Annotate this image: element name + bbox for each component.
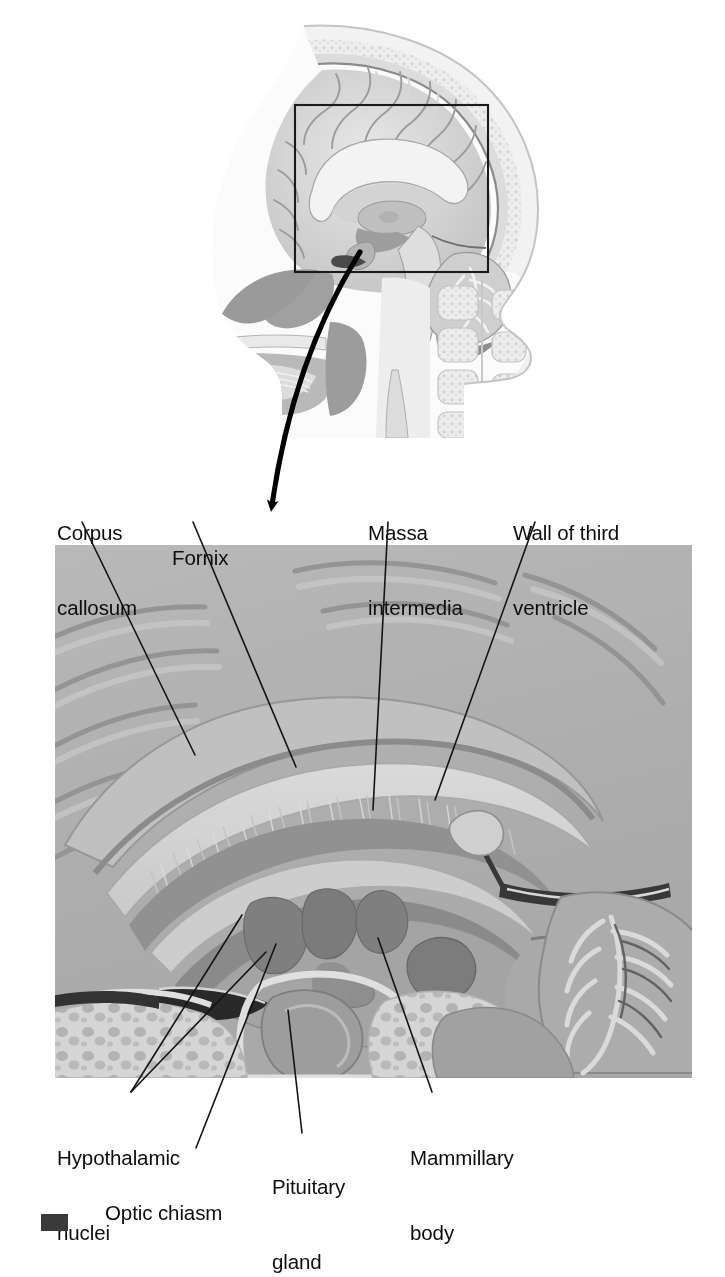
label-fornix-line1: Fornix <box>172 545 228 570</box>
label-massa-intermedia-line1: Massa <box>368 520 463 545</box>
label-optic-chiasm: Optic chiasm <box>105 1150 222 1275</box>
label-mammillary-body: Mammillary body <box>410 1095 514 1277</box>
label-optic-chiasm-line1: Optic chiasm <box>105 1200 222 1225</box>
label-wall-third-ventricle: Wall of third ventricle <box>513 470 619 670</box>
label-fornix: Fornix <box>172 495 228 620</box>
region-of-interest-box <box>186 22 590 438</box>
label-mammillary-body-line1: Mammillary <box>410 1145 514 1170</box>
figure-key-swatch <box>41 1214 68 1231</box>
label-pituitary-gland: Pituitary gland <box>272 1124 345 1277</box>
label-massa-intermedia: Massa intermedia <box>368 470 463 670</box>
label-corpus-callosum-line2: callosum <box>57 595 137 620</box>
label-massa-intermedia-line2: intermedia <box>368 595 463 620</box>
head-sagittal-illustration <box>186 22 590 438</box>
label-wall-third-ventricle-line2: ventricle <box>513 595 619 620</box>
label-corpus-callosum: Corpus callosum <box>57 470 137 670</box>
label-mammillary-body-line2: body <box>410 1220 514 1245</box>
label-wall-third-ventricle-line1: Wall of third <box>513 520 619 545</box>
label-pituitary-gland-line1: Pituitary <box>272 1174 345 1199</box>
label-pituitary-gland-line2: gland <box>272 1249 345 1274</box>
label-corpus-callosum-line1: Corpus <box>57 520 137 545</box>
